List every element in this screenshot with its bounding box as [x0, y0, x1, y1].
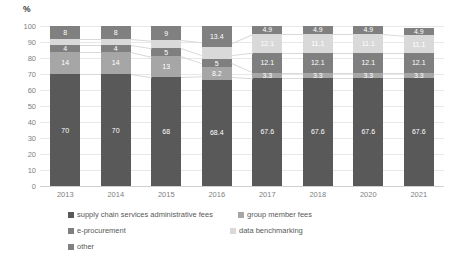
y-axis-tick: 80 [14, 54, 36, 63]
x-axis-tick: 2021 [394, 190, 445, 199]
bar-segment[interactable]: 70 [101, 74, 131, 186]
bar-segment[interactable]: 67.6 [303, 78, 333, 186]
stacked-bar-chart: % 0102030405060708090100 701448701448681… [0, 0, 454, 200]
bar-segment[interactable]: 12.1 [404, 53, 434, 72]
plot-area: 70144870144868135968.48.2513.467.63.312.… [40, 26, 444, 186]
series-connector-line [181, 77, 202, 79]
bar-segment[interactable]: 4 [50, 45, 80, 51]
bar-segment[interactable]: 14 [50, 52, 80, 74]
bar-column[interactable]: 701448 [50, 26, 80, 186]
x-axis-tick: 2018 [293, 190, 344, 199]
x-axis-tick: 2015 [141, 190, 192, 199]
bar-segment[interactable]: 3.3 [303, 73, 333, 78]
bar-segment[interactable]: 68.4 [202, 80, 232, 186]
legend-swatch-icon [68, 212, 74, 218]
series-connector-line [383, 34, 404, 37]
series-connector-line [232, 34, 253, 44]
series-connector-line [181, 48, 202, 56]
bar-segment[interactable]: 4.9 [252, 26, 282, 34]
bar-segment[interactable] [50, 39, 80, 45]
bar-segment[interactable]: 8 [101, 26, 131, 39]
bar-segment[interactable]: 14 [101, 52, 131, 74]
series-connector-line [282, 78, 303, 79]
y-axis-tick: 100 [14, 22, 36, 31]
x-axis-tick: 2014 [91, 190, 142, 199]
series-connector-line [181, 56, 202, 64]
series-connector-line [282, 34, 303, 35]
series-connector-line [383, 78, 404, 79]
y-axis-tick: 0 [14, 182, 36, 191]
bar-segment[interactable]: 3.3 [252, 73, 282, 78]
legend-item[interactable]: supply chain services administrative fee… [68, 210, 213, 219]
bar-segment[interactable]: 3.3 [404, 73, 434, 78]
bar-segment[interactable]: 67.6 [404, 78, 434, 186]
bar-column[interactable]: 68.48.2513.4 [202, 26, 232, 186]
legend-swatch-icon [68, 228, 74, 234]
series-connector-line [231, 63, 252, 73]
bar-segment[interactable]: 12.1 [252, 53, 282, 72]
series-connector-line [131, 45, 152, 49]
bar-segment[interactable]: 5 [151, 48, 181, 56]
bar-segment[interactable]: 3.3 [353, 73, 383, 78]
x-axis-tick: 2016 [192, 190, 243, 199]
legend-item[interactable]: group member fees [238, 210, 312, 219]
series-connector-line [131, 52, 152, 58]
x-axis-line [40, 186, 444, 187]
legend-label: supply chain services administrative fee… [77, 210, 213, 219]
bar-column[interactable]: 67.63.312.111.14.9 [353, 26, 383, 186]
series-connector-line [282, 53, 303, 54]
y-axis-tick: 40 [14, 118, 36, 127]
bar-segment[interactable]: 8 [50, 26, 80, 39]
bar-segment[interactable]: 4.9 [404, 28, 434, 36]
bar-segment[interactable]: 12.1 [252, 34, 282, 53]
bar-segment[interactable]: 13.4 [202, 26, 232, 47]
y-axis-unit-label: % [23, 4, 31, 14]
legend-label: group member fees [247, 210, 312, 219]
chart-legend: supply chain services administrative fee… [0, 206, 454, 259]
bar-column[interactable]: 67.63.312.112.14.9 [252, 26, 282, 186]
series-connector-line [80, 52, 101, 53]
series-connector-line [383, 53, 404, 54]
bar-column[interactable]: 67.63.312.111.14.9 [303, 26, 333, 186]
bar-segment[interactable] [151, 40, 181, 48]
bar-column[interactable]: 67.63.312.111.14.9 [404, 26, 434, 186]
x-axis-tick: 2017 [242, 190, 293, 199]
legend-swatch-icon [238, 212, 244, 218]
y-axis-tick: 50 [14, 102, 36, 111]
bar-segment[interactable]: 4.9 [303, 26, 333, 34]
bar-segment[interactable]: 13 [151, 56, 181, 77]
legend-label: e-procurement [77, 226, 126, 235]
y-axis-tick: 30 [14, 134, 36, 143]
legend-item[interactable]: data benchmarking [230, 226, 303, 235]
bar-column[interactable]: 681359 [151, 26, 181, 186]
bar-segment[interactable]: 12.1 [353, 53, 383, 72]
bar-segment[interactable]: 5 [202, 59, 232, 67]
bar-segment[interactable] [202, 47, 232, 59]
bar-segment[interactable]: 4 [101, 45, 131, 51]
bar-segment[interactable]: 67.6 [252, 78, 282, 186]
bar-segment[interactable]: 9 [151, 26, 181, 40]
bar-segment[interactable]: 11.1 [353, 34, 383, 53]
bar-column[interactable]: 701448 [101, 26, 131, 186]
bar-segment[interactable]: 12.1 [303, 53, 333, 72]
bar-segment[interactable]: 68 [151, 77, 181, 186]
x-axis-tick: 2020 [343, 190, 394, 199]
bar-segment[interactable]: 11.1 [303, 34, 333, 53]
series-connector-line [383, 73, 404, 74]
bar-segment[interactable]: 8.2 [202, 67, 232, 80]
series-connector-line [282, 73, 303, 74]
bar-segment[interactable]: 4.9 [353, 26, 383, 34]
bar-segment[interactable] [101, 39, 131, 45]
bar-segment[interactable]: 11.1 [404, 35, 434, 53]
bar-segment[interactable]: 70 [50, 74, 80, 186]
bar-segment[interactable]: 67.6 [353, 78, 383, 186]
legend-swatch-icon [68, 244, 74, 250]
legend-item[interactable]: other [68, 242, 94, 251]
series-connector-line [232, 77, 253, 79]
series-connector-line [333, 78, 354, 79]
x-axis-tick: 2013 [40, 190, 91, 199]
y-axis-tick: 20 [14, 150, 36, 159]
legend-item[interactable]: e-procurement [68, 226, 126, 235]
y-axis-tick: 70 [14, 70, 36, 79]
series-connector-line [80, 45, 101, 46]
